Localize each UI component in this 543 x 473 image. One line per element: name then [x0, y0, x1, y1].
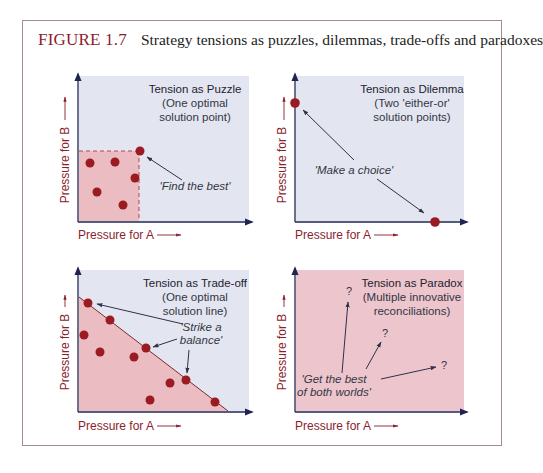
panel-subtitle: (One optimal [162, 291, 228, 303]
question-mark: ? [346, 285, 352, 297]
solution-point-b [290, 98, 300, 108]
panel-subtitle: (Multiple innovative [363, 291, 461, 303]
question-mark: ? [441, 359, 447, 371]
panel-paradox: ? ? ? Tension as Paradox (Multiple innov… [275, 268, 467, 433]
panel-subtitle: solution line) [163, 305, 228, 317]
x-axis-label: Pressure for A [295, 419, 371, 433]
panel-title: Tension as Paradox [361, 277, 462, 289]
panel-subtitle: solution point) [159, 111, 231, 123]
annotation: 'Find the best' [160, 180, 232, 192]
panel-subtitle: solution points) [373, 111, 451, 123]
x-axis-label: Pressure for A [78, 228, 154, 242]
optimal-point [136, 147, 145, 156]
y-axis-label: Pressure for B [58, 314, 72, 391]
solution-point-a [430, 217, 440, 227]
panel-title: Tension as Trade-off [143, 277, 248, 289]
question-mark: ? [382, 327, 388, 339]
panel-subtitle: (One optimal [162, 97, 228, 109]
annotation: 'Make a choice' [315, 164, 394, 176]
annotation: balance' [180, 334, 223, 346]
panel-title: Tension as Dilemma [360, 83, 464, 95]
panel-subtitle: reconciliations) [374, 305, 451, 317]
y-axis-label: Pressure for B [58, 127, 72, 204]
annotation: 'Strike a [180, 321, 221, 333]
x-axis-label: Pressure for A [78, 419, 154, 433]
y-axis-label: Pressure for B [275, 127, 289, 204]
y-axis-label: Pressure for B [275, 314, 289, 391]
x-axis-label: Pressure for A [295, 228, 371, 242]
panel-dilemma: Tension as Dilemma (Two 'either-or' solu… [275, 74, 467, 242]
annotation: 'Get the best [302, 373, 368, 385]
panel-puzzle: Tension as Puzzle (One optimal solution … [58, 74, 252, 242]
panel-tradeoff: Tension as Trade-off (One optimal soluti… [58, 268, 252, 433]
panel-title: Tension as Puzzle [149, 83, 242, 95]
panel-subtitle: (Two 'either-or' [374, 97, 449, 109]
annotation: of both worlds' [297, 386, 372, 398]
